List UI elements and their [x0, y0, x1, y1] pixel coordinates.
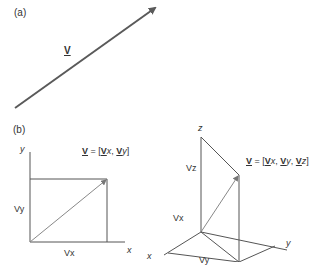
panel-b-label: (b): [13, 125, 25, 135]
panel-a-label: (a): [14, 8, 26, 18]
component-vy-label-3d: Vy: [199, 256, 209, 265]
x-axis-3d: [164, 232, 201, 255]
vector-arrow-a: [15, 8, 155, 108]
diagram-2d: [30, 152, 125, 242]
vector-arrow-2d: [30, 180, 106, 242]
component-vz-label: Vz: [186, 164, 197, 173]
z-projection-diagonal: [201, 137, 239, 175]
axis-z-label-3d: z: [198, 124, 203, 133]
component-vx-label-3d: Vx: [173, 214, 184, 223]
axis-x-label-3d: x: [147, 252, 152, 261]
vector-label-a: V: [64, 46, 71, 56]
vector-arrow-3d: [201, 176, 238, 232]
floor-y-edge: [239, 246, 275, 262]
axis-y-label-3d: y: [286, 239, 291, 248]
component-vy-label: Vy: [14, 205, 24, 214]
formula-3d: V = [Vx, Vy, Vz]: [246, 157, 309, 166]
formula-2d: V = [Vx, Vy]: [82, 147, 129, 156]
axis-y-label-2d: y: [20, 145, 25, 154]
component-vx-label-2d: Vx: [64, 249, 75, 258]
y-axis-3d: [201, 232, 287, 250]
axis-x-label-2d: x: [127, 246, 132, 255]
